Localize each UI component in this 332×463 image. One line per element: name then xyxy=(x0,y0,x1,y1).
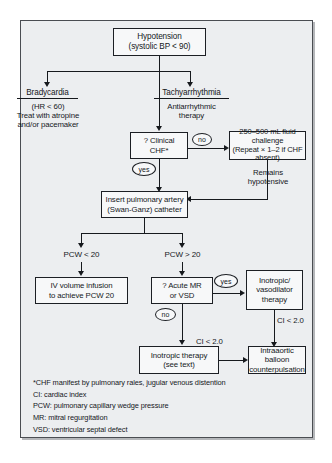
edge-label-yes-mr: yes xyxy=(214,274,238,288)
arrowhead-inotropic-therapy xyxy=(179,340,185,345)
edge-fluid-to-swan xyxy=(188,199,268,200)
label-ci-center: CI < 2.0 xyxy=(196,337,246,346)
node-intraaortic-balloon: Intraaortic balloon counterpulsation xyxy=(248,346,306,374)
arrowhead-bradycardia xyxy=(44,82,50,87)
label-tachyarrhythmia-body: Antiarrhythmic therapy xyxy=(155,102,228,120)
label-tachyarrhythmia-heading: Tachyarrhythmia xyxy=(154,88,229,99)
node-clinical-chf: ? Clinical CHF* xyxy=(130,132,188,159)
node-iv-volume-infusion: IV volume infusion to achieve PCW 20 xyxy=(35,277,128,304)
arrowhead-iv-volume xyxy=(78,271,84,276)
edge-mr-no xyxy=(182,304,183,341)
arrowhead-inotropic-vasodilator xyxy=(240,290,245,296)
node-inotropic-therapy: Inotropic therapy (see text) xyxy=(139,346,219,374)
edge-label-no-chf: no xyxy=(192,133,212,146)
legend: *CHF manifest by pulmonary rales, jugula… xyxy=(33,377,301,435)
label-ci-right: CI < 2.0 xyxy=(277,316,327,325)
node-fluid-challenge: 250–500 mL fluid challenge (Repeat × 1–2… xyxy=(229,131,306,160)
arrowhead-pcw-low xyxy=(78,243,84,248)
flowchart-page: Hypotension (systolic BP < 90) Bradycard… xyxy=(0,0,332,463)
node-swan-ganz: Insert pulmonary artery (Swan-Ganz) cath… xyxy=(101,191,188,218)
arrowhead-pcw-high xyxy=(179,243,185,248)
edge-label-yes-chf: yes xyxy=(132,162,156,176)
label-remains-hypotensive: Remains hypotensive xyxy=(232,168,304,186)
legend-line-ci: CI: cardiac index xyxy=(33,389,301,401)
edge-label-no-mr: no xyxy=(155,308,176,321)
arrowhead-tachyarrhythmia xyxy=(187,82,193,87)
node-acute-mr-vsd: ? Acute MR or VSD xyxy=(151,277,213,304)
legend-line-pcw: PCW: pulmonary capillary wedge pressure xyxy=(33,400,301,412)
label-bradycardia-body: (HR < 60) Treat with atropine and/or pac… xyxy=(7,102,89,130)
edge-chf-yes xyxy=(159,159,160,188)
edge-pcw-bus xyxy=(81,233,182,234)
edge-root-bus xyxy=(47,71,190,72)
node-inotropic-vasodilator: Inotropic/ vasodilator therapy xyxy=(246,270,303,310)
label-pcw-low: PCW < 20 xyxy=(49,250,114,259)
legend-line-vsd: VSD: ventricular septal defect xyxy=(33,424,301,436)
legend-line-mr: MR: mitral regurgitation xyxy=(33,412,301,424)
edge-chf-no xyxy=(188,148,225,149)
edge-inotropic-to-balloon xyxy=(219,360,244,361)
label-pcw-high: PCW > 20 xyxy=(150,250,215,259)
edge-mr-yes xyxy=(213,293,241,294)
diagram-frame xyxy=(20,20,313,438)
arrowhead-chf xyxy=(156,126,162,131)
edge-vasodilator-down xyxy=(274,310,275,343)
edge-swan-stem xyxy=(144,218,145,233)
arrowhead-acute-mr xyxy=(179,271,185,276)
node-hypotension: Hypotension (systolic BP < 90) xyxy=(113,28,206,56)
legend-line-chf: *CHF manifest by pulmonary rales, jugula… xyxy=(33,377,301,389)
label-bradycardia-heading: Bradycardia xyxy=(17,88,78,99)
